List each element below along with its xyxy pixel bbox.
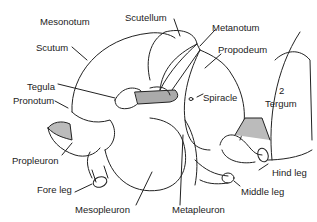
label-pronotum: Pronotum xyxy=(13,96,54,106)
label-mesopleuron: Mesopleuron xyxy=(75,205,130,215)
pronotum-outline xyxy=(72,112,115,150)
label-mesonotum: Mesonotum xyxy=(40,17,90,27)
label-middle-leg: Middle leg xyxy=(241,187,284,197)
mesopleuron-outline xyxy=(105,118,186,191)
label-propodeum: Propodeum xyxy=(218,45,267,55)
label-propleuron: Propleuron xyxy=(12,156,58,166)
tergum-outline xyxy=(271,32,300,160)
middle-leg-stub xyxy=(222,173,234,183)
spiracle-icon xyxy=(189,98,193,101)
label-hind-leg: Hind leg xyxy=(272,168,307,178)
label-spiracle: Spiracle xyxy=(203,93,237,103)
label-metapleuron: Metapleuron xyxy=(172,205,225,215)
thorax-diagram: Mesonotum Scutellum Metanotum Scutum Pro… xyxy=(0,0,317,222)
label-metanotum: Metanotum xyxy=(212,23,260,33)
label-tergum: Tergum xyxy=(265,99,297,109)
scutellum-outline xyxy=(148,31,197,91)
label-scutum: Scutum xyxy=(36,43,68,53)
label-scutellum: Scutellum xyxy=(125,13,167,23)
label-tergum-number: 2 xyxy=(279,86,284,96)
hind-leg-stub xyxy=(256,147,270,164)
label-fore-leg: Fore leg xyxy=(37,185,72,195)
label-tegula: Tegula xyxy=(27,82,55,92)
